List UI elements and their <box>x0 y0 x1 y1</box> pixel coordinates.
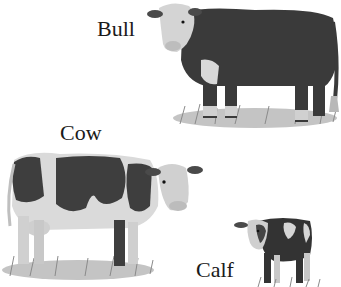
bull-illustration <box>145 0 341 135</box>
calf-illustration <box>234 213 324 287</box>
bull-label: Bull <box>97 18 135 40</box>
cow-label: Cow <box>60 122 102 144</box>
calf-label: Calf <box>196 259 234 281</box>
cow-illustration <box>0 146 205 286</box>
